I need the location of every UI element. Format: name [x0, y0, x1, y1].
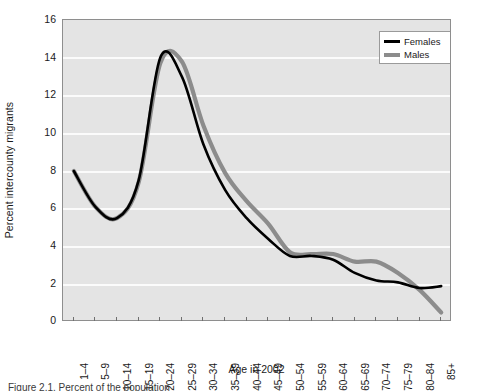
- x-tick-mark: [116, 317, 117, 321]
- legend-line-black-icon: [384, 40, 400, 43]
- x-tick-mark: [311, 317, 312, 321]
- x-tick-mark: [73, 317, 74, 321]
- legend-item-males: Males: [384, 48, 450, 61]
- legend-line-gray-icon: [384, 53, 400, 57]
- y-tick-label: 4: [34, 240, 56, 250]
- y-tick-label: 8: [34, 165, 56, 175]
- x-tick-mark: [440, 317, 441, 321]
- x-tick-mark: [138, 317, 139, 321]
- plot-area: Females Males: [62, 19, 451, 321]
- x-tick-mark: [332, 317, 333, 321]
- y-axis-title: Percent intercounty migrants: [0, 19, 18, 321]
- y-axis-tick-labels: 16 14 12 10 8 6 4 2 0: [34, 0, 56, 391]
- y-tick-label: 12: [34, 89, 56, 99]
- y-tick-label: 10: [34, 127, 56, 137]
- x-tick-mark: [159, 317, 160, 321]
- x-axis-title: Age in 2002: [62, 362, 451, 376]
- legend: Females Males: [379, 31, 451, 64]
- x-tick-mark: [289, 317, 290, 321]
- y-tick-label: 14: [34, 52, 56, 62]
- x-tick-mark: [202, 317, 203, 321]
- x-tick-mark: [419, 317, 420, 321]
- legend-label: Females: [404, 37, 440, 47]
- x-tick-mark: [224, 317, 225, 321]
- x-tick-mark: [181, 317, 182, 321]
- x-tick-mark: [397, 317, 398, 321]
- x-axis-tick-labels: 1–45–910–1415–1920–2425–2930–3435–3940–4…: [62, 321, 451, 365]
- figure-caption: Figure 2.1. Percent of the population: [8, 381, 308, 391]
- data-curves: [63, 20, 451, 321]
- x-tick-mark: [94, 317, 95, 321]
- series-line-males: [74, 51, 441, 313]
- legend-item-females: Females: [384, 35, 450, 48]
- x-tick-mark: [354, 317, 355, 321]
- x-tick-mark: [267, 317, 268, 321]
- figure-intercounty-migrants-by-age: Percent intercounty migrants 16 14 12 10…: [0, 0, 488, 391]
- series-line-females: [74, 51, 441, 288]
- y-tick-label: 2: [34, 278, 56, 288]
- x-tick-mark: [375, 317, 376, 321]
- y-tick-label: 16: [34, 14, 56, 24]
- legend-label: Males: [404, 50, 429, 60]
- y-tick-label: 0: [34, 315, 56, 325]
- y-tick-label: 6: [34, 202, 56, 212]
- x-tick-mark: [246, 317, 247, 321]
